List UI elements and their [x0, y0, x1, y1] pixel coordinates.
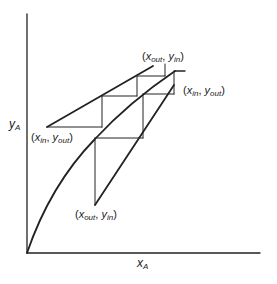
- lower-operating-line: [95, 85, 174, 205]
- label-lower-top: (xin, yout): [183, 85, 225, 98]
- upper-operating-line: [47, 66, 153, 127]
- label-upper-top: (xout, yin): [142, 51, 184, 64]
- lower-stage-steps: [95, 71, 174, 205]
- equilibrium-curve: [27, 71, 175, 253]
- y-axis-label: yA: [9, 118, 20, 132]
- label-lower-bottom: (xout, yin): [75, 209, 117, 222]
- label-upper-bottom: (xin, yout): [31, 132, 73, 145]
- x-axis-label: xA: [137, 257, 148, 271]
- diagram-canvas: yA xA (xout, yin) (xin, yout) (xin, yout…: [0, 0, 277, 284]
